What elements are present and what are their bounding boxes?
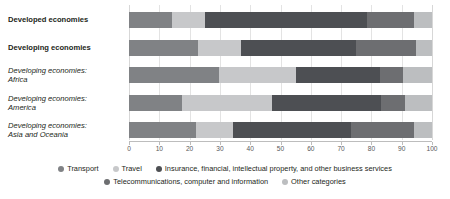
legend-label: Transport — [67, 163, 98, 175]
legend-row-2: Telecommunications, computer and informa… — [0, 176, 450, 188]
legend-swatch-icon — [104, 179, 110, 185]
legend-item[interactable]: Telecommunications, computer and informa… — [104, 176, 268, 188]
axis-tick-label: 60 — [307, 145, 314, 152]
bar-segment — [129, 95, 182, 111]
bar-row — [129, 95, 432, 111]
legend-item[interactable]: Travel — [113, 163, 142, 175]
bar-segment — [414, 122, 432, 138]
category-label-line: Developing economies: — [8, 94, 126, 103]
gridline — [432, 5, 433, 140]
bar-segment — [403, 67, 432, 83]
axis-tick-label: 70 — [337, 145, 344, 152]
category-label: Developing economies:Asia and Oceania — [8, 121, 126, 140]
axis-tick-label: 80 — [368, 145, 375, 152]
legend-item[interactable]: Transport — [58, 163, 98, 175]
bar-segment — [182, 95, 271, 111]
category-label-line: Developed economies — [8, 15, 126, 24]
bar-segment — [196, 122, 234, 138]
bar-segment — [367, 12, 414, 28]
bar-segment — [414, 12, 432, 28]
legend-item[interactable]: Other categories — [282, 176, 346, 188]
category-label-line: Developing economies: — [8, 121, 126, 130]
bar-segment — [129, 40, 198, 56]
axis-tick-label: 40 — [247, 145, 254, 152]
bar-segment — [351, 122, 414, 138]
category-label: Developing economies:America — [8, 94, 126, 113]
bar-segment — [380, 67, 403, 83]
category-label-line: Developing economies — [8, 43, 126, 52]
legend-label: Insurance, financial, intellectual prope… — [165, 163, 392, 175]
axis-tick-label: 20 — [186, 145, 193, 152]
legend-item[interactable]: Insurance, financial, intellectual prope… — [156, 163, 392, 175]
category-label: Developing economies — [8, 43, 126, 52]
legend-swatch-icon — [58, 166, 64, 172]
axis-tick-label: 10 — [156, 145, 163, 152]
bar-segment — [129, 12, 172, 28]
legend-label: Telecommunications, computer and informa… — [113, 176, 268, 188]
legend-swatch-icon — [113, 166, 119, 172]
bar-segment — [198, 40, 241, 56]
axis-tick-label: 30 — [216, 145, 223, 152]
bar-row — [129, 40, 432, 56]
stacked-bar-chart: Developed economiesDeveloping economiesD… — [0, 0, 450, 199]
bar-segment — [129, 122, 196, 138]
axis-tick-label: 50 — [277, 145, 284, 152]
bar-segment — [296, 67, 380, 83]
category-axis-labels: Developed economiesDeveloping economiesD… — [0, 0, 126, 140]
value-axis-ticks: 0102030405060708090100 — [129, 142, 432, 154]
bar-segment — [356, 40, 417, 56]
axis-tick-label: 0 — [127, 145, 131, 152]
category-label-line: Africa — [8, 75, 126, 84]
bar-segment — [381, 95, 405, 111]
bar-segment — [219, 67, 296, 83]
plot-area — [129, 5, 432, 140]
legend-row-1: TransportTravelInsurance, financial, int… — [0, 163, 450, 175]
bar-segment — [233, 122, 351, 138]
axis-tick-label: 90 — [398, 145, 405, 152]
category-label-line: Asia and Oceania — [8, 130, 126, 139]
bar-segment — [405, 95, 432, 111]
category-label: Developed economies — [8, 15, 126, 24]
legend: TransportTravelInsurance, financial, int… — [0, 163, 450, 188]
legend-swatch-icon — [156, 166, 162, 172]
category-label-line: Developing economies: — [8, 66, 126, 75]
bar-segment — [416, 40, 432, 56]
bar-row — [129, 67, 432, 83]
bar-segment — [272, 95, 381, 111]
axis-tick-label: 100 — [426, 145, 437, 152]
category-label: Developing economies:Africa — [8, 66, 126, 85]
bar-row — [129, 122, 432, 138]
category-label-line: America — [8, 103, 126, 112]
bar-segment — [205, 12, 367, 28]
legend-label: Other categories — [291, 176, 346, 188]
legend-label: Travel — [122, 163, 142, 175]
bar-row — [129, 12, 432, 28]
bar-segment — [172, 12, 205, 28]
bar-segment — [129, 67, 219, 83]
legend-swatch-icon — [282, 179, 288, 185]
bar-segment — [241, 40, 355, 56]
